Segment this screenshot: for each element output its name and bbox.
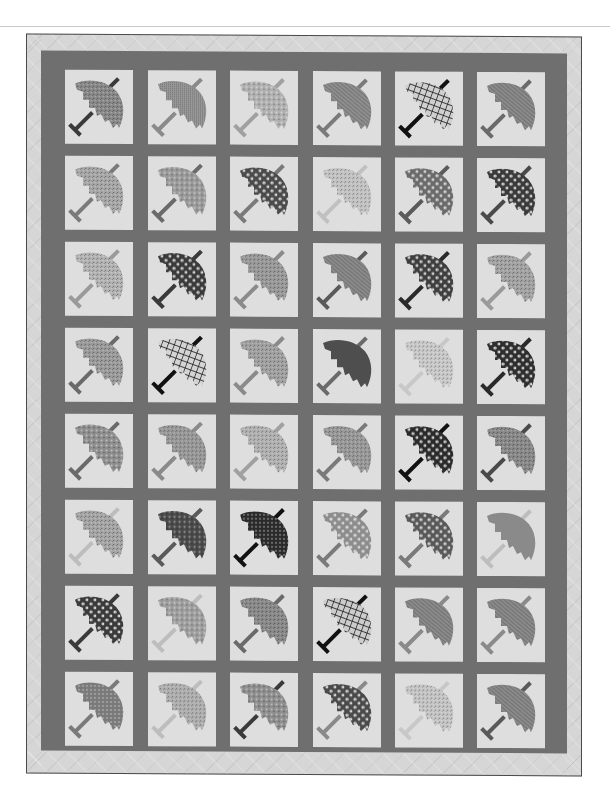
- umbrella-icon: [65, 156, 133, 230]
- quilted-border-right: [567, 37, 581, 775]
- umbrella-block: [395, 157, 463, 231]
- umbrella-block: [395, 71, 463, 145]
- umbrella-icon: [313, 157, 381, 231]
- umbrella-icon: [313, 71, 381, 145]
- umbrella-block: [395, 587, 463, 661]
- umbrella-block: [65, 70, 133, 144]
- quilt: [26, 34, 582, 777]
- umbrella-icon: [148, 586, 216, 660]
- umbrella-icon: [395, 415, 463, 489]
- umbrella-block: [477, 72, 545, 146]
- umbrella-icon: [65, 70, 133, 144]
- umbrella-block: [477, 244, 545, 318]
- umbrella-icon: [65, 242, 133, 316]
- umbrella-block: [477, 502, 545, 576]
- umbrella-block: [313, 71, 381, 145]
- umbrella-block: [148, 70, 216, 144]
- umbrella-block: [148, 500, 216, 574]
- umbrella-icon: [477, 158, 545, 232]
- umbrella-block: [313, 243, 381, 317]
- umbrella-icon: [65, 586, 133, 660]
- umbrella-icon: [477, 416, 545, 490]
- umbrella-icon: [395, 243, 463, 317]
- umbrella-icon: [230, 157, 298, 231]
- umbrella-block: [65, 586, 133, 660]
- umbrella-block: [230, 243, 298, 317]
- umbrella-block: [148, 414, 216, 488]
- umbrella-block: [65, 414, 133, 488]
- umbrella-icon: [230, 71, 298, 145]
- umbrella-icon: [148, 242, 216, 316]
- umbrella-icon: [395, 501, 463, 575]
- umbrella-block: [65, 328, 133, 402]
- umbrella-block: [148, 242, 216, 316]
- umbrella-block: [65, 672, 133, 746]
- umbrella-block: [477, 674, 545, 748]
- umbrella-icon: [395, 329, 463, 403]
- umbrella-icon: [477, 502, 545, 576]
- umbrella-block: [313, 157, 381, 231]
- umbrella-icon: [230, 329, 298, 403]
- umbrella-icon: [313, 243, 381, 317]
- umbrella-block: [230, 329, 298, 403]
- umbrella-block: [477, 588, 545, 662]
- umbrella-block: [230, 501, 298, 575]
- umbrella-icon: [395, 587, 463, 661]
- umbrella-block: [230, 157, 298, 231]
- umbrella-icon: [148, 672, 216, 746]
- umbrella-block: [230, 673, 298, 747]
- umbrella-block: [313, 501, 381, 575]
- umbrella-icon: [230, 415, 298, 489]
- umbrella-block: [148, 672, 216, 746]
- umbrella-icon: [230, 587, 298, 661]
- umbrella-icon: [313, 501, 381, 575]
- umbrella-block: [148, 156, 216, 230]
- umbrella-icon: [477, 244, 545, 318]
- umbrella-icon: [313, 329, 381, 403]
- umbrella-icon: [477, 330, 545, 404]
- umbrella-block: [313, 673, 381, 747]
- umbrella-icon: [148, 156, 216, 230]
- umbrella-block: [395, 243, 463, 317]
- umbrella-block: [313, 415, 381, 489]
- umbrella-icon: [230, 243, 298, 317]
- umbrella-icon: [395, 673, 463, 747]
- umbrella-icon: [313, 673, 381, 747]
- umbrella-block: [395, 415, 463, 489]
- umbrella-icon: [65, 672, 133, 746]
- umbrella-icon: [477, 72, 545, 146]
- umbrella-icon: [148, 414, 216, 488]
- umbrella-block: [65, 500, 133, 574]
- umbrella-block: [230, 587, 298, 661]
- umbrella-block: [395, 501, 463, 575]
- umbrella-icon: [395, 157, 463, 231]
- umbrella-icon: [148, 328, 216, 402]
- umbrella-block: [313, 587, 381, 661]
- umbrella-block: [148, 586, 216, 660]
- top-divider-line: [0, 26, 610, 27]
- umbrella-block: [65, 156, 133, 230]
- umbrella-block: [477, 330, 545, 404]
- umbrella-block: [230, 71, 298, 145]
- umbrella-icon: [477, 588, 545, 662]
- umbrella-block: [477, 416, 545, 490]
- umbrella-block: [65, 242, 133, 316]
- umbrella-icon: [230, 673, 298, 747]
- umbrella-icon: [148, 500, 216, 574]
- umbrella-block: [477, 158, 545, 232]
- umbrella-icon: [313, 415, 381, 489]
- umbrella-block: [395, 673, 463, 747]
- umbrella-icon: [395, 71, 463, 145]
- umbrella-block: [395, 329, 463, 403]
- umbrella-icon: [313, 587, 381, 661]
- umbrella-block: [148, 328, 216, 402]
- umbrella-icon: [65, 328, 133, 402]
- quilted-border-left: [27, 35, 41, 773]
- umbrella-icon: [477, 674, 545, 748]
- umbrella-icon: [65, 414, 133, 488]
- umbrella-block: [313, 329, 381, 403]
- umbrella-icon: [65, 500, 133, 574]
- umbrella-block: [230, 415, 298, 489]
- quilted-border-bottom: [27, 751, 581, 776]
- umbrella-icon: [148, 70, 216, 144]
